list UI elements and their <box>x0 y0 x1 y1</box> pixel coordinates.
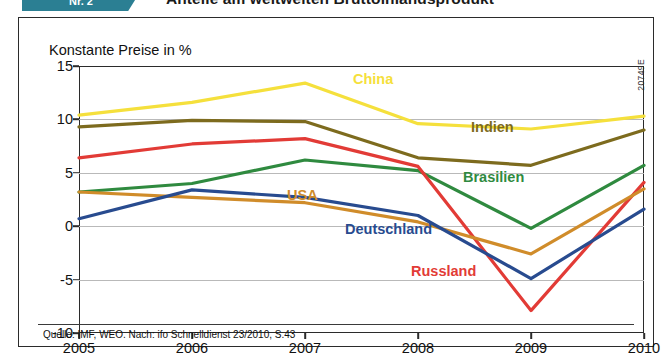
x-tick-mark <box>643 333 645 339</box>
series-label-indien: Indien <box>471 119 514 135</box>
page-title: Anteile am weltweiten Bruttoinlandsprodu… <box>166 0 666 12</box>
x-tick-label: 2005 <box>63 340 95 356</box>
series-label-china: China <box>353 71 393 87</box>
plot-area: 151050-5-10 200520062007200820092010 <box>79 66 644 333</box>
series-label-russland: Russland <box>411 263 476 279</box>
series-label-usa: USA <box>287 187 318 203</box>
chart-screenshot: Nr. 2 Anteile am weltweiten Bruttoinland… <box>0 0 672 357</box>
chart-frame: Konstante Preise in % 20749E 151050-5-10… <box>18 17 654 347</box>
series-label-deutschland: Deutschland <box>345 221 432 237</box>
y-tick-label: -5 <box>60 272 73 288</box>
header-strip: Nr. 2 Anteile am weltweiten Bruttoinland… <box>0 0 672 13</box>
x-tick-label: 2008 <box>402 340 434 356</box>
y-tick-label: 15 <box>57 58 73 74</box>
series-lines <box>79 66 644 333</box>
source-note: Quelle: IMF, WEO. Nach: ifo Schnelldiens… <box>43 329 295 340</box>
line-brasilien <box>79 160 644 228</box>
x-tick-mark <box>417 333 419 339</box>
y-tick-label: 5 <box>65 165 73 181</box>
x-tick-label: 2009 <box>515 340 547 356</box>
y-tick-label: 10 <box>57 111 73 127</box>
y-tick-label: 0 <box>65 218 73 234</box>
x-tick-label: 2010 <box>628 340 660 356</box>
x-tick-mark <box>530 333 532 339</box>
y-axis-title: Konstante Preise in % <box>49 42 192 58</box>
x-tick-label: 2006 <box>176 340 208 356</box>
series-label-brasilien: Brasilien <box>463 169 524 185</box>
header-badge: Nr. 2 <box>22 0 140 11</box>
x-tick-label: 2007 <box>289 340 321 356</box>
source-divider <box>38 324 634 325</box>
x-tick-mark <box>304 333 306 339</box>
